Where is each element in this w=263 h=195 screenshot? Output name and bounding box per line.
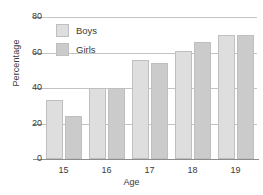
bar-boys-age-17: [132, 60, 149, 159]
x-axis-title: Age: [0, 177, 263, 187]
y-axis-title: Percentage: [11, 13, 21, 113]
bar-girls-age-18: [194, 42, 211, 159]
chart-legend: Boys Girls: [56, 22, 97, 60]
bar-group: [132, 17, 168, 159]
y-tick-label: 60: [28, 48, 42, 57]
bar-girls-age-17: [151, 63, 168, 159]
x-tick-label: 19: [216, 165, 256, 175]
x-tick-label: 16: [87, 165, 127, 175]
y-tick-label: 0: [28, 154, 42, 163]
y-tick-label: 40: [28, 83, 42, 92]
bar-girls-age-19: [237, 35, 254, 159]
legend-swatch-boys-icon: [56, 24, 69, 37]
y-tick-label: 80: [28, 12, 42, 21]
legend-swatch-girls-icon: [56, 43, 69, 56]
bar-boys-age-18: [175, 51, 192, 159]
legend-label-girls: Girls: [76, 44, 96, 55]
bar-boys-age-19: [218, 35, 235, 159]
bar-boys-age-15: [46, 100, 63, 159]
bar-boys-age-16: [89, 88, 106, 159]
bar-group: [218, 17, 254, 159]
x-axis-line: [42, 159, 259, 160]
x-tick-label: 17: [130, 165, 170, 175]
bar-chart: Percentage Age 020406080 1516171819 Boys…: [0, 0, 263, 195]
x-tick-label: 15: [44, 165, 84, 175]
legend-label-boys: Boys: [76, 25, 97, 36]
bar-girls-age-15: [65, 116, 82, 159]
y-tick-label: 20: [28, 119, 42, 128]
legend-item-boys: Boys: [56, 22, 97, 39]
bar-group: [175, 17, 211, 159]
x-tick-label: 18: [173, 165, 213, 175]
bar-girls-age-16: [108, 88, 125, 159]
legend-item-girls: Girls: [56, 41, 97, 58]
